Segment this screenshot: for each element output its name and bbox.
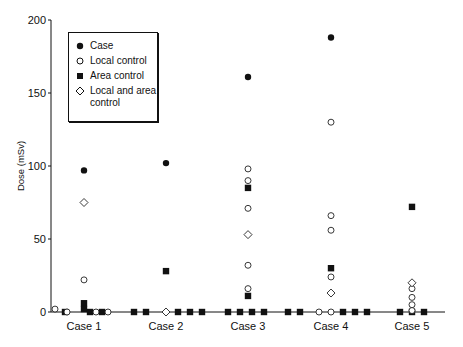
open-diamond-icon — [75, 85, 85, 97]
local-control-point — [328, 309, 334, 315]
legend-label: Local and area control — [90, 85, 157, 109]
legend-item-local-control: Local control — [75, 55, 157, 67]
case-point — [328, 34, 334, 40]
area-control-point — [409, 204, 415, 210]
area-control-point — [352, 309, 358, 315]
y-tick-label: 0 — [40, 306, 46, 318]
local-control-point — [409, 302, 415, 308]
area-control-point — [397, 309, 403, 315]
filled-square-icon — [75, 70, 85, 82]
local-control-point — [245, 286, 251, 292]
area-control-point — [143, 309, 149, 315]
local-area-control-point — [327, 289, 335, 297]
x-category-label: Case 5 — [395, 320, 430, 332]
local-control-point — [245, 262, 251, 268]
y-tick-label: 150 — [28, 87, 46, 99]
area-control-point — [297, 309, 303, 315]
local-area-control-point — [408, 279, 416, 287]
legend-item-local-and-area-control: Local and area control — [75, 85, 157, 109]
area-control-point — [175, 309, 181, 315]
area-control-point — [285, 309, 291, 315]
area-control-point — [187, 309, 193, 315]
area-control-point — [87, 309, 93, 315]
local-control-point — [64, 309, 70, 315]
area-control-point — [99, 309, 105, 315]
filled-circle-icon — [75, 40, 85, 52]
x-category-label: Case 3 — [231, 320, 266, 332]
area-control-point — [225, 309, 231, 315]
local-control-point — [409, 294, 415, 300]
local-control-point — [328, 119, 334, 125]
legend-label: Area control — [90, 70, 144, 82]
y-tick-label: 100 — [28, 160, 46, 172]
case-point — [81, 167, 87, 173]
local-control-point — [52, 306, 58, 312]
area-control-point — [81, 306, 87, 312]
area-control-point — [421, 309, 427, 315]
area-control-point — [245, 293, 251, 299]
case-point — [163, 160, 169, 166]
x-category-label: Case 2 — [149, 320, 184, 332]
area-control-point — [163, 268, 169, 274]
legend-label: Case — [90, 40, 113, 52]
case-point — [245, 74, 251, 80]
local-control-point — [245, 205, 251, 211]
local-area-control-point — [80, 199, 88, 207]
local-control-point — [316, 309, 322, 315]
y-axis-label: Dose (mSv) — [15, 141, 26, 191]
legend-item-area-control: Area control — [75, 70, 157, 82]
area-control-point — [249, 309, 255, 315]
area-control-point — [199, 309, 205, 315]
x-category-label: Case 1 — [67, 320, 102, 332]
area-control-point — [131, 309, 137, 315]
y-tick-label: 50 — [34, 233, 46, 245]
legend-item-case: Case — [75, 40, 157, 52]
local-control-point — [409, 308, 415, 314]
local-control-point — [328, 274, 334, 280]
local-control-point — [245, 166, 251, 172]
x-category-label: Case 4 — [314, 320, 349, 332]
open-circle-icon — [75, 55, 85, 67]
area-control-point — [81, 300, 87, 306]
local-area-control-point — [244, 231, 252, 239]
local-control-point — [93, 309, 99, 315]
area-control-point — [340, 309, 346, 315]
local-control-point — [245, 178, 251, 184]
local-control-point — [105, 309, 111, 315]
local-area-control-point — [162, 308, 170, 316]
area-control-point — [245, 185, 251, 191]
area-control-point — [237, 309, 243, 315]
local-control-point — [81, 277, 87, 283]
local-control-point — [328, 213, 334, 219]
area-control-point — [364, 309, 370, 315]
y-tick-label: 200 — [28, 14, 46, 26]
legend-label: Local control — [90, 55, 147, 67]
area-control-point — [328, 265, 334, 271]
legend: Case Local control Area control Local an… — [68, 32, 158, 122]
local-control-point — [328, 227, 334, 233]
area-control-point — [261, 309, 267, 315]
